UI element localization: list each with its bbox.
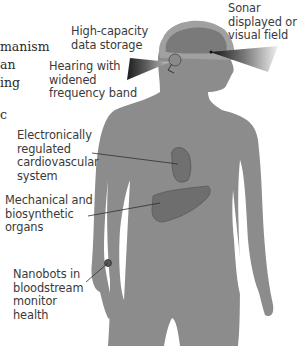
label-sonar: Sonar displayed on visual field: [228, 2, 297, 43]
label-cardiovascular: Electronically regulated cardiovascular …: [17, 129, 99, 183]
article-text-fragment: manism an ing c: [0, 39, 50, 123]
label-hearing: Hearing with widened frequency band: [49, 60, 137, 101]
label-organs: Mechanical and biosynthetic organs: [5, 194, 93, 235]
label-nanobots: Nanobots in bloodstream monitor health: [13, 268, 83, 322]
cyborg-body-diagram: manism an ing c High-capacity data stora…: [0, 0, 297, 346]
heart-organ-icon: [172, 147, 191, 182]
label-data-storage: High-capacity data storage: [71, 25, 148, 52]
